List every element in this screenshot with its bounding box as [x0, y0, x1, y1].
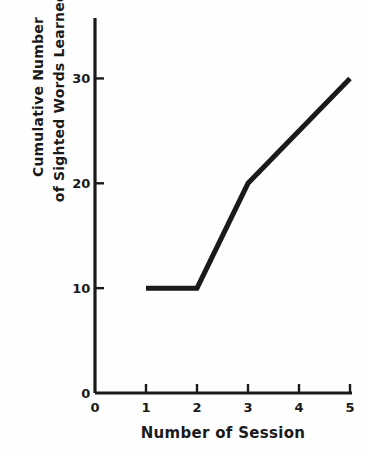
x-tick-label: 1	[142, 401, 151, 414]
line-chart-plot	[0, 0, 368, 453]
x-tick-label: 5	[346, 401, 355, 414]
x-axis-title: Number of Session	[95, 424, 351, 442]
x-tick-label: 0	[91, 401, 100, 414]
x-tick-label: 4	[295, 401, 304, 414]
axis-lines	[95, 18, 352, 393]
x-tick-label: 2	[193, 401, 202, 414]
y-tick-label: 20	[52, 177, 90, 190]
figure-panel: 0102030 012345 Number of Session Cumulat…	[0, 0, 368, 453]
y-tick-label: 0	[52, 387, 90, 400]
x-tick-label: 3	[244, 401, 253, 414]
y-tick-label: 30	[52, 72, 90, 85]
y-tick-label: 10	[52, 282, 90, 295]
data-series-line	[146, 78, 350, 288]
